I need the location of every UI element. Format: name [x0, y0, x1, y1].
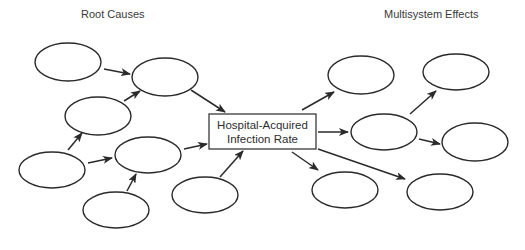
arrow-rc1-rc2 [104, 69, 130, 74]
root-cause-node-5[interactable] [115, 137, 181, 173]
center-box-line-2: Infection Rate [227, 133, 298, 145]
center-box-line-1: Hospital-Acquired [217, 119, 308, 131]
arrow-center-ef5 [292, 152, 318, 170]
effect-node-6[interactable] [407, 174, 473, 210]
effect-node-3[interactable] [351, 114, 417, 150]
arrow-rc4-rc5 [88, 158, 112, 163]
arrow-ef3-ef4 [419, 139, 440, 144]
effect-node-2[interactable] [423, 54, 489, 90]
root-cause-node-6[interactable] [83, 192, 149, 228]
effect-node-4[interactable] [442, 123, 508, 161]
arrow-rc3-rc2 [124, 91, 140, 101]
concept-map: Hospital-Acquired Infection Rate [0, 0, 525, 250]
effect-node-1[interactable] [328, 56, 394, 94]
root-cause-node-1[interactable] [35, 43, 101, 81]
root-cause-node-7[interactable] [172, 177, 238, 213]
arrow-ef3-ef2 [410, 91, 436, 114]
root-cause-node-2[interactable] [132, 58, 198, 96]
arrow-rc2-center [191, 90, 225, 112]
arrow-rc7-center [220, 151, 243, 177]
arrow-rc5-center [184, 144, 207, 149]
arrow-rc6-rc5 [127, 174, 136, 191]
root-cause-node-3[interactable] [65, 97, 131, 135]
root-cause-node-4[interactable] [19, 152, 85, 188]
effect-node-5[interactable] [312, 172, 378, 208]
arrow-center-ef1 [302, 92, 334, 110]
arrow-rc4-rc3 [68, 133, 82, 150]
